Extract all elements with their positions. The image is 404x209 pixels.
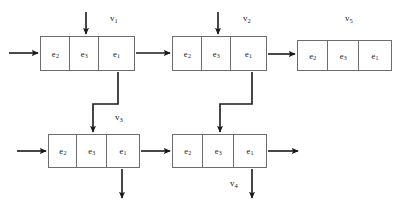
node-v2-cell-e3[interactable]: e3 [202, 37, 230, 70]
node-v3-cell-e2[interactable]: e2 [49, 135, 77, 167]
v1-to-v3 [93, 72, 118, 132]
node-v5-cell-e1[interactable]: e1 [359, 41, 391, 70]
v2-to-v4 [220, 72, 252, 132]
node-label-v5: v5 [345, 13, 353, 23]
node-v4-cell-e3[interactable]: e3 [203, 135, 233, 167]
node-v4-cell-e2[interactable]: e2 [173, 135, 203, 167]
node-v1-cell-e1[interactable]: e1 [99, 37, 134, 70]
node-v5-cell-e3[interactable]: e3 [328, 41, 358, 70]
arrow-layer [0, 0, 404, 209]
node-label-v4: v4 [230, 178, 238, 188]
node-label-v3: v3 [115, 112, 123, 122]
node-v5-cell-e2[interactable]: e2 [298, 41, 328, 70]
node-v1-cell-e2[interactable]: e2 [41, 37, 70, 70]
node-v2[interactable]: e2e3e1 [172, 36, 267, 71]
node-v3[interactable]: e2e3e1 [48, 134, 140, 168]
node-v4-cell-e1[interactable]: e1 [234, 135, 266, 167]
diagram-canvas: e2e3e1v1e2e3e1v2e2e3e1v5e2e3e1v3e2e3e1v4 [0, 0, 404, 209]
node-v5[interactable]: e2e3e1 [297, 40, 392, 71]
node-v1[interactable]: e2e3e1 [40, 36, 135, 71]
node-v2-cell-e1[interactable]: e1 [231, 37, 266, 70]
node-v1-cell-e3[interactable]: e3 [70, 37, 98, 70]
node-v3-cell-e1[interactable]: e1 [107, 135, 139, 167]
node-v3-cell-e3[interactable]: e3 [77, 135, 106, 167]
node-label-v1: v1 [110, 13, 118, 23]
node-label-v2: v2 [243, 13, 251, 23]
node-v4[interactable]: e2e3e1 [172, 134, 267, 168]
node-v2-cell-e2[interactable]: e2 [173, 37, 202, 70]
